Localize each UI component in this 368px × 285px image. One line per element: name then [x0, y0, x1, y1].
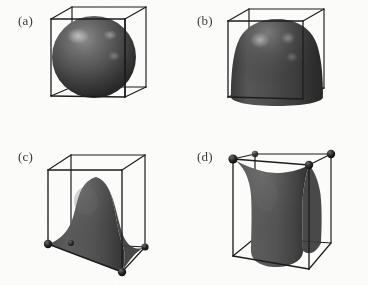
- panel-c-scene: [0, 143, 184, 285]
- corner-marker: [141, 243, 148, 250]
- corner-marker: [44, 240, 52, 248]
- panel-d: (d): [184, 143, 368, 285]
- panel-c: (c): [0, 143, 184, 285]
- figure-container: (a): [0, 0, 368, 285]
- panel-a-scene: [0, 0, 184, 142]
- corner-marker: [68, 240, 74, 246]
- panel-a: (a): [0, 0, 184, 142]
- corner-marker: [327, 150, 335, 158]
- dome-surface: [231, 19, 323, 106]
- corner-marker: [252, 151, 258, 157]
- panel-b-scene: [184, 0, 368, 142]
- sphere-surface: [52, 16, 136, 98]
- corner-marker: [118, 268, 126, 276]
- panel-b: (b): [184, 0, 368, 142]
- panel-d-scene: [184, 143, 368, 285]
- bell-tent-surface: [48, 177, 145, 272]
- corner-marker: [228, 154, 237, 163]
- corner-marker: [305, 161, 313, 169]
